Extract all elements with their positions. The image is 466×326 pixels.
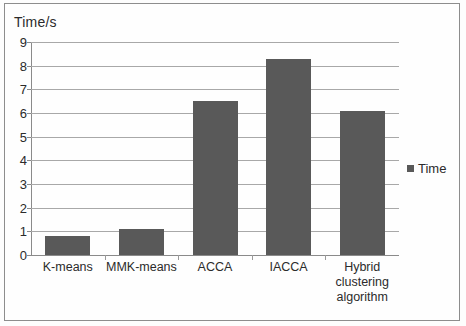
x-axis-label-mmk-means: MMK-means xyxy=(105,260,179,275)
x-axis-label-acca: ACCA xyxy=(178,260,252,275)
y-tick-label-3: 3 xyxy=(5,177,27,192)
legend-swatch-time xyxy=(407,165,414,172)
x-label-line: MMK-means xyxy=(105,260,179,275)
y-axis-tick-group: 9876543210 xyxy=(3,42,27,255)
gridline-8 xyxy=(31,66,399,67)
y-axis-title: Time/s xyxy=(14,14,57,30)
x-label-line: Hybrid xyxy=(325,260,399,275)
x-axis-label-hybrid-clustering-algorithm: Hybridclusteringalgorithm xyxy=(325,260,399,305)
y-tick-label-5: 5 xyxy=(5,129,27,144)
figure-container: Time/s 9876543210 K-meansMMK-meansACCAIA… xyxy=(0,0,466,326)
x-axis-category-labels: K-meansMMK-meansACCAIACCAHybridclusterin… xyxy=(31,260,399,320)
x-label-line: K-means xyxy=(31,260,105,275)
y-tick-label-8: 8 xyxy=(5,58,27,73)
y-tick-label-4: 4 xyxy=(5,153,27,168)
bar-k-means[interactable] xyxy=(45,236,90,255)
y-tick-label-9: 9 xyxy=(5,35,27,50)
y-tick-label-2: 2 xyxy=(5,200,27,215)
x-label-line: IACCA xyxy=(252,260,326,275)
plot-area xyxy=(31,42,399,255)
x-axis-label-iacca: IACCA xyxy=(252,260,326,275)
gridline-9 xyxy=(31,42,399,43)
y-tick-label-0: 0 xyxy=(5,248,27,263)
x-axis-label-k-means: K-means xyxy=(31,260,105,275)
y-tick-label-7: 7 xyxy=(5,82,27,97)
y-tick-label-6: 6 xyxy=(5,106,27,121)
legend: Time xyxy=(407,161,446,176)
legend-label-time: Time xyxy=(418,161,446,176)
x-label-line: ACCA xyxy=(178,260,252,275)
bar-acca[interactable] xyxy=(193,101,238,255)
bar-mmk-means[interactable] xyxy=(119,229,164,255)
x-label-line: algorithm xyxy=(325,290,399,305)
gridline-0 xyxy=(31,255,399,256)
y-tick-label-1: 1 xyxy=(5,224,27,239)
bar-iacca[interactable] xyxy=(266,59,311,255)
bar-hybrid-clustering-algorithm[interactable] xyxy=(340,111,385,255)
x-label-line: clustering xyxy=(325,275,399,290)
gridline-7 xyxy=(31,89,399,90)
